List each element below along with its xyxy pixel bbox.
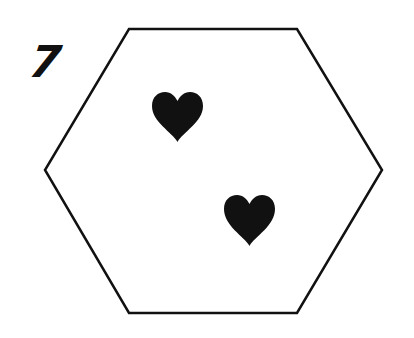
- hexagon-shape: [45, 29, 382, 313]
- card-figure: [0, 0, 414, 338]
